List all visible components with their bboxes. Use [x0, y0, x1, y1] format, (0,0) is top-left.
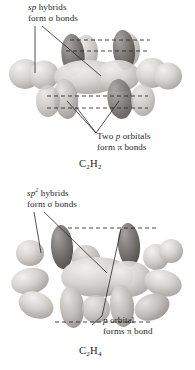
formula-c2h2-c-sub: 2 — [86, 163, 90, 171]
label-sp-rest: hybrids — [36, 2, 66, 12]
p-orbital-upper-right — [116, 222, 141, 267]
label-sp2-hybrids-line1: sp2 hybrids — [27, 188, 77, 199]
label-sp2-hybrids: sp2 hybrids form σ bonds — [27, 188, 77, 209]
figure-acetylene: sp hybrids form σ bonds Two p orbitals f… — [0, 0, 195, 185]
label-sp-hybrids: sp hybrids form σ bonds — [28, 2, 78, 23]
formula-c2h4-h: H — [90, 345, 98, 356]
formula-c2h2-h-sub: 2 — [98, 163, 102, 171]
formula-c2h4-c-sub: 2 — [86, 350, 90, 358]
label-two-p-orbitals: Two p orbitals form π bonds — [97, 131, 151, 152]
label-sp-hybrids-line1: sp hybrids — [28, 2, 78, 13]
label-sp2-rest: hybrids — [38, 188, 68, 198]
label-two-p-pre: Two — [97, 131, 116, 141]
label-p-orbital: p orbital forms π bond — [103, 315, 153, 336]
label-two-p-rest: orbitals — [120, 131, 150, 141]
orbital-diagram-ethylene — [0, 185, 195, 370]
formula-c2h4-h-sub: 4 — [98, 350, 102, 358]
label-two-p-line1: Two p orbitals — [97, 131, 151, 142]
label-sp-hybrids-line2: form σ bonds — [28, 13, 78, 24]
label-two-p-line2: form π bonds — [97, 142, 151, 153]
p-orbital-upper-left — [49, 224, 74, 269]
sp-hybrid-lobes-left — [9, 59, 59, 90]
sp2-hybrid-left-arms — [9, 264, 58, 323]
formula-c2h2-h: H — [90, 158, 98, 169]
label-p-orbital-line2: forms π bond — [103, 326, 153, 337]
label-p-orbital-line1: p orbital — [103, 315, 153, 326]
label-p-orbital-rest: orbital — [108, 315, 135, 325]
label-sp2-hybrids-line2: form σ bonds — [27, 199, 77, 210]
formula-c2h2: C2H2 — [79, 158, 102, 169]
figure-ethylene: sp2 hybrids form σ bonds p orbital forms… — [0, 185, 195, 370]
formula-c2h4: C2H4 — [79, 345, 102, 356]
